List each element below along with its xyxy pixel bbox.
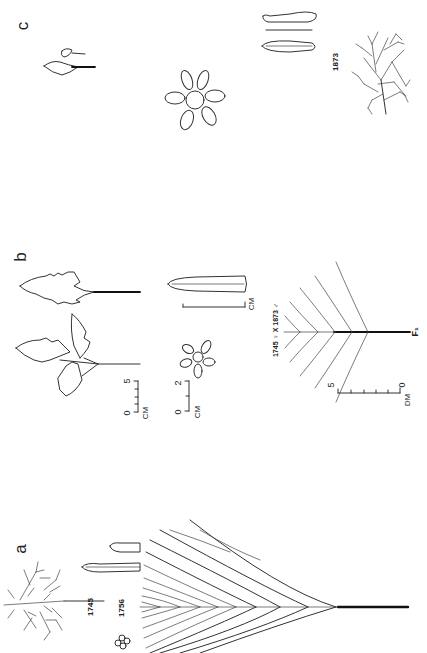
panel-b-flower-scale: 2 0 CM xyxy=(173,380,202,418)
leaf-scale-unit: CM xyxy=(141,406,150,419)
panel-c-flower-icon xyxy=(165,69,225,132)
panel-b-leaf-scale: 5 0 CM xyxy=(122,378,150,419)
plant-scale-unit: DM xyxy=(403,393,412,406)
leaf-scale-zero: 0 xyxy=(122,410,132,415)
pod-scale-unit: CM xyxy=(247,297,256,310)
panel-b-pod-scale: CM xyxy=(183,297,256,310)
panel-b-flower-icon xyxy=(179,339,215,378)
panel-a-accession-label-2: 1756 xyxy=(117,599,126,617)
flower-scale-max: 2 xyxy=(173,380,183,385)
panel-a-label: a xyxy=(11,544,30,554)
botanical-figure-plate: c 1873 xyxy=(0,0,427,653)
panel-b-simple-leaf-icon xyxy=(20,272,140,304)
plant-scale-max: 5 xyxy=(326,382,336,387)
panel-b-label: b xyxy=(11,252,30,261)
panel-b: b CM xyxy=(11,252,420,419)
flower-scale-unit: CM xyxy=(193,405,202,418)
plant-scale-zero: 0 xyxy=(397,382,407,387)
panel-c-label: c xyxy=(13,21,32,30)
panel-b-cross-label: 1745 ♀ X 1873 ♂ xyxy=(272,303,279,357)
panel-c-pods-icon xyxy=(262,12,316,52)
panel-c-leaves-icon xyxy=(44,49,95,75)
panel-b-f1-plant-diagram xyxy=(284,262,410,402)
panel-a: a 1745 1756 xyxy=(4,520,408,653)
panel-a-pods-icon xyxy=(82,543,140,572)
panel-a-flower-cluster-icon xyxy=(115,635,130,649)
flower-scale-zero: 0 xyxy=(173,409,183,414)
panel-a-branching-diagram xyxy=(140,520,408,653)
panel-a-accession-label-1: 1745 xyxy=(86,598,95,616)
panel-c-plant-habit-icon xyxy=(352,32,410,114)
panel-c: c 1873 xyxy=(13,12,410,131)
leaf-scale-max: 5 xyxy=(122,378,132,383)
panel-b-generation-label: F₁ xyxy=(410,327,420,336)
panel-c-accession-label: 1873 xyxy=(331,53,340,71)
panel-b-pod-icon xyxy=(168,276,247,292)
